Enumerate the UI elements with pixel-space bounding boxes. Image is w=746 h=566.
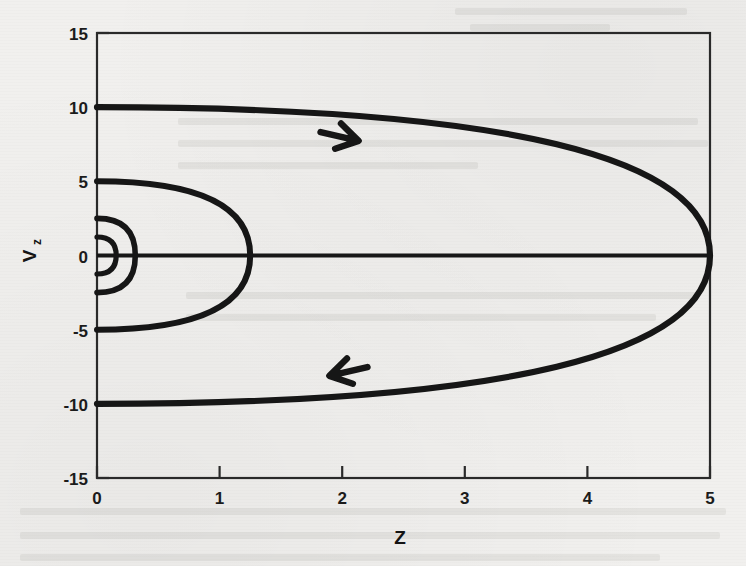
y-tick-label-5: 5: [79, 173, 88, 192]
y-axis-title-subscript: z: [30, 239, 44, 245]
x-tick-label-3: 3: [460, 489, 469, 508]
x-tick-label-4: 4: [583, 489, 593, 508]
arrow-left-icon: [327, 354, 371, 388]
x-tick-label-2: 2: [337, 489, 346, 508]
phase-space-plot: 15 10 5 0 -5 -10 -15 0 1 2 3 4 5 Z V z: [0, 0, 746, 566]
x-tick-label-5: 5: [705, 489, 714, 508]
y-tick-label-10: 10: [69, 99, 88, 118]
y-tick-label-m5: -5: [73, 322, 88, 341]
x-tick-label-0: 0: [92, 489, 101, 508]
y-axis-title: V z: [19, 239, 44, 262]
x-axis-ticks: [97, 466, 710, 478]
arrow-right-icon: [318, 119, 362, 153]
y-tick-label-0: 0: [79, 248, 88, 267]
figure-page: 15 10 5 0 -5 -10 -15 0 1 2 3 4 5 Z V z: [0, 0, 746, 566]
x-tick-label-1: 1: [215, 489, 224, 508]
y-tick-label-m15: -15: [63, 470, 88, 489]
y-tick-label-15: 15: [69, 25, 88, 44]
y-axis-title-main: V: [19, 249, 40, 262]
x-axis-title: Z: [394, 527, 406, 548]
y-tick-labels: 15 10 5 0 -5 -10 -15: [63, 25, 88, 489]
y-tick-label-m10: -10: [63, 396, 88, 415]
x-tick-labels: 0 1 2 3 4 5: [92, 489, 714, 508]
